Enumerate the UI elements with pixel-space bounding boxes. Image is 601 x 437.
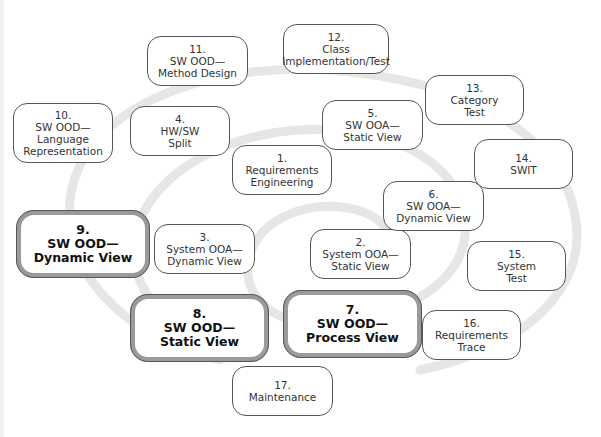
- node-17: 17. Maintenance: [232, 366, 333, 416]
- node-1: 1. Requirements Engineering: [232, 145, 332, 195]
- node-10: 10. SW OOD— Language Representation: [13, 103, 113, 163]
- node-15: 15. System Test: [467, 241, 566, 291]
- node-13: 13. Category Test: [425, 75, 524, 125]
- node-4: 4. HW/SW Split: [130, 106, 230, 156]
- node-16: 16. Requirements Trace: [422, 310, 521, 360]
- node-7: 7. SW OOD— Process View: [283, 290, 422, 358]
- node-3: 3. System OOA— Dynamic View: [154, 224, 255, 274]
- node-9: 9. SW OOD— Dynamic View: [16, 210, 150, 278]
- node-5: 5. SW OOA— Static View: [322, 100, 423, 150]
- node-2: 2. System OOA— Static View: [310, 229, 411, 279]
- node-14: 14. SWIT: [474, 139, 573, 189]
- node-6: 6. SW OOA— Dynamic View: [383, 181, 484, 231]
- node-12: 12. Class Implementation/Test: [283, 24, 389, 74]
- node-11: 11. SW OOD— Method Design: [147, 36, 248, 86]
- node-8: 8. SW OOD— Static View: [130, 294, 269, 362]
